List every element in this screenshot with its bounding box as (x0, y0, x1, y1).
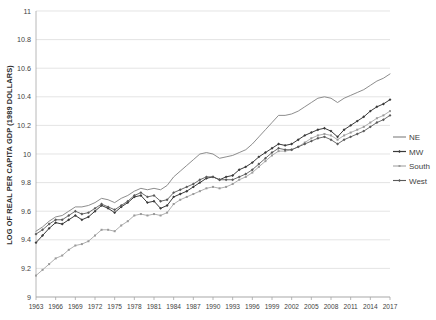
data-point-marker (55, 257, 57, 259)
data-point-marker (290, 148, 293, 151)
legend-item-mw[interactable]: MW (393, 148, 424, 157)
x-tick-label: 1993 (225, 303, 240, 310)
data-point-marker (87, 240, 89, 242)
x-tick-label: 1969 (68, 303, 83, 310)
chart-container: 99.29.49.69.81010.210.410.610.811 196319… (0, 0, 436, 320)
data-point-marker (219, 187, 221, 189)
data-point-marker (356, 133, 359, 136)
data-point-marker (238, 179, 240, 181)
x-tick-label: 1963 (29, 303, 44, 310)
y-tick-label: 9.4 (21, 235, 31, 244)
data-point-marker (310, 131, 313, 134)
data-point-marker (382, 114, 384, 116)
legend-item-ne[interactable]: NE (393, 133, 420, 142)
data-point-marker (179, 188, 182, 191)
x-tick-label: 1978 (127, 303, 142, 310)
data-point-marker (120, 225, 122, 227)
legend-item-south[interactable]: South (393, 162, 430, 171)
x-tick-label: 1966 (48, 303, 63, 310)
data-point-marker (225, 186, 227, 188)
legend-item-west[interactable]: West (393, 177, 428, 186)
data-point-marker (199, 190, 201, 192)
data-point-marker (231, 178, 234, 181)
x-tick-label: 1981 (147, 303, 162, 310)
data-point-marker (337, 139, 339, 141)
data-point-marker (389, 110, 391, 112)
legend-label: MW (409, 148, 424, 157)
data-point-marker (192, 193, 194, 195)
data-point-marker (212, 175, 215, 178)
data-point-marker (80, 213, 83, 216)
data-point-marker (81, 243, 83, 245)
data-point-marker (146, 214, 148, 216)
data-point-marker (212, 186, 214, 188)
x-tick-label: 1984 (166, 303, 181, 310)
y-axis-ticks: 99.29.49.69.81010.210.410.610.811 (17, 7, 31, 302)
y-tick-label: 10.2 (17, 121, 31, 130)
data-point-marker (258, 166, 260, 168)
x-tick-label: 1972 (88, 303, 103, 310)
data-point-marker (74, 245, 76, 247)
data-point-marker (376, 117, 378, 119)
data-point-marker (107, 229, 109, 231)
data-point-marker (225, 175, 228, 178)
legend-label: NE (409, 133, 420, 142)
legend-swatch-marker (398, 179, 401, 182)
y-axis-title: LOG OF REAL PER CAPITA GDP (1989 DOLLARS… (5, 65, 14, 245)
data-point-marker (127, 220, 129, 222)
data-point-marker (316, 137, 319, 140)
data-point-marker (185, 185, 188, 188)
x-tick-label: 2005 (304, 303, 319, 310)
data-point-marker (94, 235, 96, 237)
data-point-marker (323, 135, 326, 138)
data-point-marker (179, 199, 181, 201)
data-point-marker (225, 178, 228, 181)
data-point-marker (316, 128, 319, 131)
data-point-marker (317, 134, 319, 136)
y-axis-title-group: LOG OF REAL PER CAPITA GDP (1989 DOLLARS… (5, 65, 14, 245)
data-point-marker (218, 178, 221, 181)
data-point-marker (251, 172, 253, 174)
data-point-marker (323, 127, 326, 130)
data-point-marker (245, 176, 247, 178)
data-point-marker (264, 160, 266, 162)
data-point-marker (343, 134, 345, 136)
data-point-marker (140, 213, 142, 215)
x-tick-label: 2017 (383, 303, 398, 310)
x-tick-label: 2014 (363, 303, 378, 310)
data-point-marker (179, 193, 182, 196)
x-tick-label: 2002 (284, 303, 299, 310)
data-point-marker (35, 275, 37, 277)
x-tick-label: 1999 (265, 303, 280, 310)
series-south (35, 110, 391, 276)
data-point-marker (173, 203, 175, 205)
data-point-marker (205, 187, 207, 189)
legend-swatch-marker (399, 165, 401, 167)
series-mw (35, 98, 392, 244)
data-point-marker (186, 196, 188, 198)
data-point-marker (310, 137, 312, 139)
y-tick-label: 9.8 (21, 178, 31, 187)
data-point-marker (133, 214, 135, 216)
legend-swatch-marker (398, 150, 401, 153)
data-point-marker (232, 183, 234, 185)
data-point-marker (278, 150, 280, 152)
data-point-marker (271, 154, 273, 156)
line-chart: 99.29.49.69.81010.210.410.610.811 196319… (0, 0, 436, 320)
data-point-marker (61, 255, 63, 257)
legend-label: West (409, 177, 428, 186)
x-tick-label: 2011 (344, 303, 359, 310)
y-tick-label: 11 (24, 7, 31, 16)
data-point-marker (153, 213, 155, 215)
data-point-marker (323, 133, 325, 135)
data-point-marker (369, 122, 371, 124)
x-axis-ticks: 1963196619691972197519781981198419871990… (29, 297, 398, 310)
legend-label: South (409, 162, 430, 171)
data-point-marker (350, 132, 352, 134)
legend: NEMWSouthWest (393, 133, 430, 186)
series-line (36, 74, 390, 231)
data-point-marker (284, 144, 287, 147)
data-point-marker (363, 126, 365, 128)
data-point-marker (42, 269, 44, 271)
x-tick-label: 1990 (206, 303, 221, 310)
